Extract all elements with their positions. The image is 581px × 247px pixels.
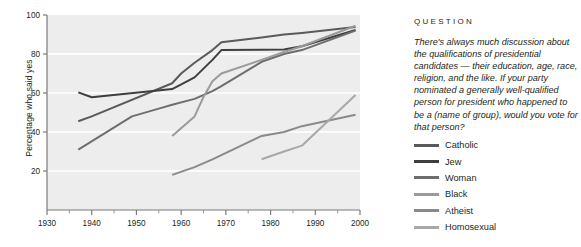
y-tick-label: 40 [31,128,41,137]
chart-page: Percentage who said yes 2040608010019301… [0,0,581,247]
plot-area: 2040608010019301940195019601970198019902… [0,0,400,247]
x-tick-label: 1930 [38,219,57,228]
question-heading: QUESTION [414,17,474,26]
legend-swatch-icon [414,160,439,163]
x-tick-label: 2000 [351,219,370,228]
plot-background [47,15,360,210]
legend-label: Black [445,189,467,199]
legend-item-black[interactable]: Black [414,186,578,202]
x-tick-label: 1970 [217,219,236,228]
question-body-text: There's always much discussion about the… [414,36,578,133]
legend-item-catholic[interactable]: Catholic [414,137,578,153]
x-tick-label: 1940 [83,219,102,228]
legend-label: Atheist [445,206,473,216]
x-tick-label: 1990 [306,219,325,228]
chart-legend: CatholicJewWomanBlackAtheistHomosexual [414,137,578,235]
legend-item-atheist[interactable]: Atheist [414,203,578,219]
legend-swatch-icon [414,226,439,229]
y-tick-label: 80 [31,50,41,59]
legend-swatch-icon [414,176,439,179]
legend-label: Woman [445,173,477,183]
legend-label: Catholic [445,140,478,150]
legend-label: Homosexual [445,222,496,232]
x-tick-label: 1980 [261,219,280,228]
legend-label: Jew [445,157,461,167]
y-tick-label: 60 [31,89,41,98]
y-tick-label: 100 [26,11,40,20]
legend-swatch-icon [414,193,439,196]
x-tick-label: 1950 [127,219,146,228]
question-panel: QUESTION There's always much discussion … [414,0,581,247]
legend-swatch-icon [414,209,439,212]
x-tick-label: 1960 [172,219,191,228]
legend-item-woman[interactable]: Woman [414,170,578,186]
legend-item-homosexual[interactable]: Homosexual [414,219,578,235]
legend-item-jew[interactable]: Jew [414,153,578,169]
line-chart: Percentage who said yes 2040608010019301… [0,0,400,247]
legend-swatch-icon [414,144,439,147]
y-tick-label: 20 [31,167,41,176]
